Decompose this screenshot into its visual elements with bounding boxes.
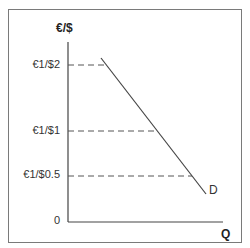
tick-label-05: €1/$0.5 <box>23 168 60 180</box>
origin-label: 0 <box>54 214 60 226</box>
tick-label-2: €1/$2 <box>32 58 60 70</box>
y-axis-title: €/$ <box>56 21 73 35</box>
demand-curve <box>101 58 206 194</box>
x-axis-title: Q <box>221 227 230 241</box>
curve-label: D <box>209 183 218 197</box>
tick-label-1: €1/$1 <box>32 124 60 136</box>
